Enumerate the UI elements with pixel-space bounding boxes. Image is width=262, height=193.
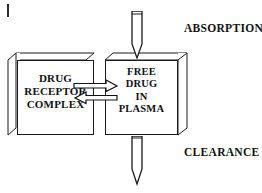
label-absorption: ABSORPTION [184,22,262,34]
scan-artifact-tick [7,4,9,17]
needle-icon-absorption [126,11,148,59]
diagram-canvas: DRUG RECEPTOR COMPLEX FREE DRUG IN PLASM… [0,0,262,193]
box-right-face [178,53,190,135]
exchange-arrows [72,78,120,108]
box-label-line: FREE [105,66,178,78]
arrow-left [75,92,117,104]
label-clearance: CLEARANCE [184,146,260,158]
arrow-right [74,80,117,92]
needle-icon-clearance [126,136,148,186]
